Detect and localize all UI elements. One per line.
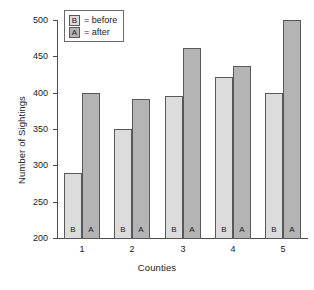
x-axis-tick-label: 5 xyxy=(263,245,303,254)
y-axis-tick xyxy=(53,20,57,21)
x-axis-title: Counties xyxy=(0,262,314,273)
bar-2-A xyxy=(132,99,150,239)
bar-chart: Number of Sightings 20025030035040045050… xyxy=(0,0,314,290)
x-axis-tick-label: 2 xyxy=(112,245,152,254)
legend-item-before: B = before xyxy=(69,14,117,26)
legend-label-before: = before xyxy=(84,15,117,25)
y-axis-tick xyxy=(53,202,57,203)
legend-swatch-after: A xyxy=(69,27,80,38)
y-axis-line xyxy=(57,20,58,238)
y-axis-tick xyxy=(53,93,57,94)
x-axis-tick-label: 4 xyxy=(213,245,253,254)
bar-4-B xyxy=(215,77,233,239)
bar-2-B xyxy=(114,129,132,239)
bar-tag-5-B: B xyxy=(265,226,283,234)
y-axis-tick-label: 500 xyxy=(18,16,48,25)
bar-tag-3-B: B xyxy=(165,226,183,234)
bar-tag-4-B: B xyxy=(215,226,233,234)
y-axis-tick-label: 300 xyxy=(18,161,48,170)
y-axis-tick xyxy=(53,56,57,57)
bar-tag-2-B: B xyxy=(114,226,132,234)
bar-tag-2-A: A xyxy=(132,226,150,234)
y-axis-tick xyxy=(53,238,57,239)
x-axis-tick-label: 1 xyxy=(62,245,102,254)
bar-3-A xyxy=(183,48,201,239)
legend-label-after: = after xyxy=(84,27,110,37)
x-axis-tick-label: 3 xyxy=(163,245,203,254)
bar-4-A xyxy=(233,66,251,239)
legend-item-after: A = after xyxy=(69,26,117,38)
y-axis-tick-label: 200 xyxy=(18,234,48,243)
y-axis-tick-label: 400 xyxy=(18,89,48,98)
y-axis-tick-label: 450 xyxy=(18,52,48,61)
y-axis-tick-label: 250 xyxy=(18,198,48,207)
bar-tag-4-A: A xyxy=(233,226,251,234)
bar-3-B xyxy=(165,96,183,239)
bar-5-A xyxy=(283,20,301,239)
y-axis-tick-label: 350 xyxy=(18,125,48,134)
bar-tag-5-A: A xyxy=(283,226,301,234)
bar-tag-1-A: A xyxy=(82,226,100,234)
y-axis-tick xyxy=(53,129,57,130)
chart-legend: B = before A = after xyxy=(64,10,124,42)
bar-5-B xyxy=(265,93,283,239)
y-axis-title: Number of Sightings xyxy=(16,96,27,184)
bar-tag-3-A: A xyxy=(183,226,201,234)
y-axis-tick xyxy=(53,165,57,166)
bar-tag-1-B: B xyxy=(64,226,82,234)
bar-1-A xyxy=(82,93,100,239)
legend-swatch-before: B xyxy=(69,15,80,26)
